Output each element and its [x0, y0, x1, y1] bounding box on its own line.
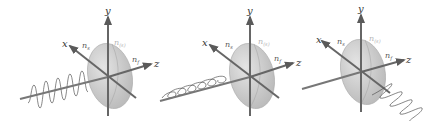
nsf-label: n(s) — [114, 38, 126, 48]
figure-canvas: y x z ns n(s) nf y x z ns n(s) nf y x z … — [0, 0, 441, 126]
z-axis-label: z — [405, 54, 412, 65]
x-axis-label: x — [62, 38, 68, 49]
z-axis-label: z — [153, 58, 160, 69]
ns-label: ns — [82, 41, 90, 51]
ns-label: ns — [225, 40, 233, 50]
y-axis-label: y — [357, 3, 364, 14]
x-axis-label: x — [316, 34, 322, 45]
nf-label: nf — [132, 55, 140, 66]
nf-label: nf — [385, 51, 393, 62]
y-axis-label: y — [104, 5, 111, 16]
z-axis-label: z — [295, 57, 302, 68]
panel-1: y x z ns n(s) nf — [20, 5, 160, 116]
ns-label: ns — [337, 37, 345, 47]
nsf-label: n(s) — [369, 34, 381, 44]
panel-2: y x z ns n(s) nf — [160, 5, 302, 116]
x-axis-label: x — [202, 37, 208, 48]
wave-horizontal — [162, 76, 226, 98]
y-axis-label: y — [246, 5, 253, 16]
nf-label: nf — [274, 54, 282, 65]
nsf-label: n(s) — [258, 37, 270, 47]
panel-3: y x z ns n(s) nf — [302, 3, 422, 121]
